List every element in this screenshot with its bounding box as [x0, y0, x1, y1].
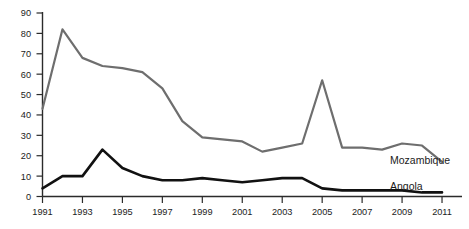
x-tick-label: 1999 [192, 207, 212, 217]
x-tick-label: 2009 [392, 207, 412, 217]
x-tick-label: 2001 [232, 207, 252, 217]
x-tick-label: 1991 [32, 207, 52, 217]
series-label-mozambique: Mozambique [390, 154, 450, 166]
series-label-angola: Angola [390, 180, 423, 192]
y-tick-label: 60 [21, 70, 31, 80]
line-chart: 0102030405060708090 19911993199519971999… [0, 0, 469, 229]
x-tick-label: 1995 [112, 207, 132, 217]
chart-canvas: 0102030405060708090 19911993199519971999… [0, 0, 469, 229]
x-tick-label: 2005 [312, 207, 332, 217]
x-tick-label: 2011 [432, 207, 452, 217]
y-tick-label: 80 [21, 29, 31, 39]
y-tick-label: 0 [26, 192, 31, 202]
y-tick-label: 50 [21, 90, 31, 100]
x-tick-label: 1997 [152, 207, 172, 217]
x-tick-label: 2007 [352, 207, 372, 217]
y-tick-label: 30 [21, 131, 31, 141]
x-axis-tick-marks [43, 197, 443, 204]
y-tick-label: 90 [21, 8, 31, 18]
x-tick-label: 2003 [272, 207, 292, 217]
y-axis-tick-labels: 0102030405060708090 [21, 8, 31, 202]
y-tick-label: 40 [21, 110, 31, 120]
series-line-angola [43, 150, 443, 193]
x-axis-tick-labels: 1991199319951997199920012003200520072009… [32, 207, 452, 217]
y-tick-label: 10 [21, 172, 31, 182]
series-line-mozambique [43, 29, 443, 162]
y-tick-label: 70 [21, 49, 31, 59]
x-tick-label: 1993 [72, 207, 92, 217]
y-tick-label: 20 [21, 151, 31, 161]
y-axis-tick-marks [37, 13, 43, 197]
